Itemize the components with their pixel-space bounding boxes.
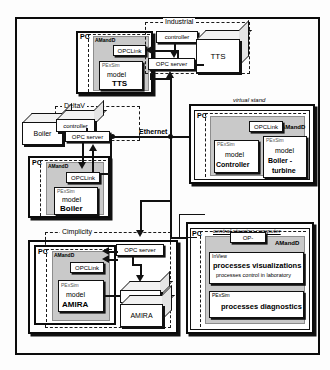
boiler-opclink-box: OPCLink — [66, 172, 100, 183]
ethernet-label: Ethernet — [139, 128, 167, 135]
ethernet-to-cimplicity-v — [140, 200, 142, 232]
deltav-opc-server-box: OPC server — [65, 131, 110, 142]
tts-model-name: TTS — [112, 80, 127, 88]
arrow-cimp-opc-to-opclink — [102, 247, 109, 255]
conn-opclink-to-opc-boiler — [92, 150, 94, 172]
amira-amandd-label: AMandD — [54, 253, 74, 258]
amira-plant-iso: AMIRA — [120, 295, 172, 327]
conn-plant-to-opc-tts — [194, 64, 204, 66]
virtual-model-controller-name: Controller — [216, 161, 249, 168]
central-inview-tool: InView — [212, 254, 227, 259]
boiler-amandd-label: AMandD — [48, 164, 68, 169]
conn-opc-to-opclink-tts — [149, 50, 179, 52]
amira-model-word: model — [66, 291, 85, 298]
tts-opclink-box: OPCLink — [113, 45, 146, 56]
cimplicity-group-label: Cimplicity — [60, 228, 94, 235]
cimplicity-opc-server-box: OPC server — [116, 244, 164, 256]
boiler-model-word: model — [62, 196, 81, 203]
boiler-pexsim-label: PExSim — [57, 189, 75, 194]
conn-tts-pc-to-bus-h — [150, 78, 172, 80]
conn-central-stub-h2 — [179, 237, 197, 238]
ethernet-to-cimplicity-h — [140, 200, 171, 202]
amira-opclink-box: OPCLink — [70, 262, 104, 273]
amira-plant-label: AMIRA — [120, 304, 163, 327]
amira-model-name: AMIRA — [62, 301, 88, 309]
conn-amira-model-to-ctrl — [103, 295, 121, 297]
boiler-model-name: Boiler — [60, 205, 83, 213]
virtual-model-boiler-tool: PExSim — [266, 138, 284, 143]
central-pexsim-tool: PExSim — [212, 293, 230, 298]
arrow-opc-to-opclink-tts — [145, 46, 152, 54]
industrial-opc-server-box: OPC server — [148, 58, 195, 70]
virtual-model-boiler-name2: turbine — [272, 167, 296, 174]
arrow-ethernet-to-opc-tts — [166, 71, 174, 78]
ethernet-trunk-tts — [170, 80, 172, 135]
conn-boiler-pc-bus-h — [100, 173, 112, 175]
conn-opc-to-opclink-tts-v — [177, 50, 179, 59]
arrow-opc-to-opclink-boiler — [78, 162, 86, 169]
virtual-opclink-box: OPCLink — [249, 121, 283, 132]
tts-plant-label: TTS — [196, 39, 240, 73]
industrial-group-label: Industrial — [163, 18, 195, 25]
virtual-model-boiler-word: model — [275, 147, 294, 154]
arrow-cimp-opclink-to-opc — [102, 255, 109, 263]
diagram-canvas: PC AMandD OPCLink PExSim model TTS Indus… — [0, 0, 330, 370]
conn-ctrl-to-opc-boiler — [86, 128, 88, 132]
deltav-controller-iso: controller — [56, 110, 104, 132]
central-inview-line2: processes control in laboratory — [216, 273, 291, 279]
tts-model-word: model — [107, 71, 126, 78]
industrial-controller-box: controller — [156, 31, 198, 43]
virtual-model-boiler-name: Boiler - — [268, 157, 292, 164]
virtual-amandd-label: AMandD — [281, 124, 305, 130]
tts-pexsim-label: PExSim — [102, 63, 120, 68]
amira-pexsim-label: PExSim — [61, 283, 79, 288]
central-op-box: OP- — [230, 232, 266, 243]
central-amandd-label: AMandD — [275, 240, 299, 246]
central-pexsim-line1: processes diagnostics — [221, 303, 302, 311]
conn-boiler-pc-bus-v — [110, 136, 112, 174]
tts-plant-iso: TTS — [196, 30, 249, 73]
conn-central-stub — [179, 214, 205, 215]
central-inview-line1: processes visualizations — [213, 262, 301, 270]
tts-plant-side-face — [239, 20, 249, 66]
conn-opc-to-opclink-boiler — [82, 142, 84, 163]
virtual-model-controller-word: model — [225, 151, 244, 158]
tts-amandd-label: AMandD — [95, 38, 115, 43]
virtual-stand-label: virtual stand — [233, 97, 265, 103]
ethernet-to-central-v — [170, 136, 172, 238]
virtual-model-controller-tool: PExSim — [217, 142, 235, 147]
conn-central-stub-v — [179, 214, 180, 238]
